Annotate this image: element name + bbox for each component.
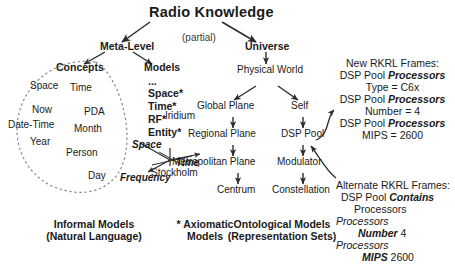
node-meta-level[interactable]: Meta-Level: [100, 41, 154, 52]
caption-informal-line2: (Natural Language): [24, 231, 164, 243]
new-frames-line-6: MIPS = 2600: [330, 130, 455, 142]
model-entity[interactable]: Entity*: [148, 127, 181, 138]
node-models[interactable]: Models: [144, 62, 180, 73]
node-global-plane[interactable]: Global Plane: [197, 101, 254, 111]
concept-year[interactable]: Year: [30, 137, 50, 147]
edge-physicalworld-self: [278, 86, 298, 100]
node-regional-plane[interactable]: Regional Plane: [188, 129, 256, 139]
alternate-rkrl-frames-block: Alternate RKRL Frames: DSP Pool Contains…: [336, 180, 455, 264]
concept-space[interactable]: Space: [30, 81, 58, 91]
caption-ontological-line2: (Representation Sets): [222, 231, 342, 243]
node-centrum[interactable]: Centrum: [217, 185, 255, 195]
node-self[interactable]: Self: [291, 101, 308, 111]
concept-pda[interactable]: PDA: [84, 107, 105, 117]
node-constellation[interactable]: Constellation: [272, 185, 330, 195]
concept-day[interactable]: Day: [88, 171, 106, 181]
model-space[interactable]: Space*: [148, 88, 183, 99]
instance-label-iridium[interactable]: Iridium: [165, 111, 195, 121]
edge-title-metalevel: [122, 22, 150, 42]
node-universe[interactable]: Universe: [245, 41, 289, 52]
alternate-frames-line-6: MIPS 2600: [336, 252, 455, 264]
concept-now[interactable]: Now: [32, 105, 52, 115]
caption-ontological-models: Ontological Models (Representation Sets): [222, 219, 342, 243]
node-physical-world[interactable]: Physical World: [237, 65, 303, 75]
diagram-title: Radio Knowledge: [149, 5, 274, 20]
caption-informal-models: Informal Models (Natural Language): [24, 219, 164, 243]
node-modulator[interactable]: Modulator: [277, 157, 321, 167]
node-dsp-pool[interactable]: DSP Pool: [281, 129, 324, 139]
concept-month[interactable]: Month: [74, 124, 102, 134]
axis-label-space: Space: [132, 140, 161, 150]
models-ellipsis: ...: [148, 76, 157, 87]
node-metropolitan-plane[interactable]: Metropolitan Plane: [172, 157, 255, 167]
instance-label-stockholm[interactable]: Stockholm: [151, 168, 198, 178]
concept-date-time[interactable]: Date-Time: [8, 120, 54, 130]
concept-time[interactable]: Time: [70, 83, 92, 93]
node-concepts[interactable]: Concepts: [56, 62, 104, 73]
edge-physicalworld-globalplane: [234, 86, 256, 100]
caption-ontological-line1: Ontological Models: [222, 219, 342, 231]
edge-title-universe: [222, 22, 256, 42]
caption-informal-line1: Informal Models: [24, 219, 164, 231]
partial-note: (partial): [182, 33, 216, 43]
model-rf[interactable]: RF*: [148, 114, 166, 125]
concept-person[interactable]: Person: [66, 148, 98, 158]
new-rkrl-frames-block: New RKRL Frames: DSP Pool Processors Typ…: [330, 58, 455, 142]
